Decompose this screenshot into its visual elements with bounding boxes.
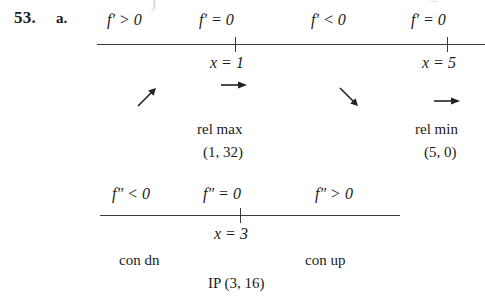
arrow-right-icon-increasing-2 bbox=[433, 94, 461, 108]
first-derivative-number-line bbox=[97, 44, 485, 45]
rel-min-point: (5, 0) bbox=[424, 145, 457, 160]
arrow-down-right-icon bbox=[338, 86, 360, 108]
rel-max-point: (1, 32) bbox=[203, 145, 243, 160]
second-derivative-number-line bbox=[100, 215, 400, 216]
arrow-up-right-icon bbox=[136, 86, 158, 108]
rel-max-label: rel max bbox=[197, 122, 242, 137]
exercise-number: 53. bbox=[14, 9, 36, 26]
tick-mark-x-5 bbox=[447, 37, 448, 52]
tick-label-x-3: x = 3 bbox=[214, 226, 248, 242]
arrow-right-icon-increasing bbox=[220, 78, 248, 92]
sign-label-f-double-prime-zero: f″ = 0 bbox=[203, 186, 241, 202]
tick-mark-x-3 bbox=[240, 208, 241, 223]
clipped-text-artifact: ∫ bbox=[152, 0, 156, 11]
tick-label-x-1: x = 1 bbox=[210, 55, 244, 71]
sign-label-f-prime-zero-at-5: f′ = 0 bbox=[411, 12, 446, 28]
concavity-label-down: con dn bbox=[119, 253, 159, 268]
sign-label-f-double-prime-negative: f″ < 0 bbox=[112, 186, 150, 202]
sign-label-f-prime-zero-at-1: f′ = 0 bbox=[199, 12, 234, 28]
inflection-point-label: IP (3, 16) bbox=[208, 276, 265, 291]
worked-solution-figure: ∫ − 53. a. f′ > 0 f′ = 0 f′ < 0 f′ = 0 x… bbox=[0, 0, 485, 306]
rel-min-label: rel min bbox=[415, 122, 458, 137]
tick-mark-x-1 bbox=[235, 37, 236, 52]
sign-label-f-prime-negative: f′ < 0 bbox=[311, 12, 346, 28]
sign-label-f-prime-positive: f′ > 0 bbox=[107, 12, 142, 28]
exercise-part-label: a. bbox=[56, 11, 67, 26]
concavity-label-up: con up bbox=[305, 253, 345, 268]
tick-label-x-5: x = 5 bbox=[422, 55, 456, 71]
sign-label-f-double-prime-positive: f″ > 0 bbox=[315, 186, 353, 202]
clipped-text-artifact-2: − bbox=[430, 0, 438, 10]
